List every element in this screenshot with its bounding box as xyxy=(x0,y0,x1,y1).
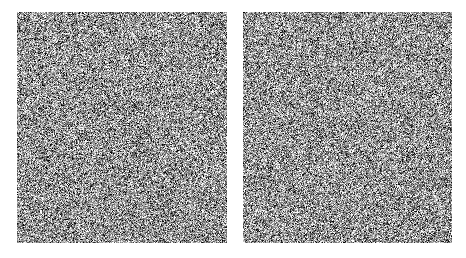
noise-panel-left xyxy=(17,12,227,243)
noise-panel-right xyxy=(243,12,452,243)
panel-gap-separator xyxy=(227,12,243,243)
noise-canvas-right xyxy=(243,12,452,243)
noise-canvas-left xyxy=(17,12,227,243)
figure-root xyxy=(0,0,466,258)
